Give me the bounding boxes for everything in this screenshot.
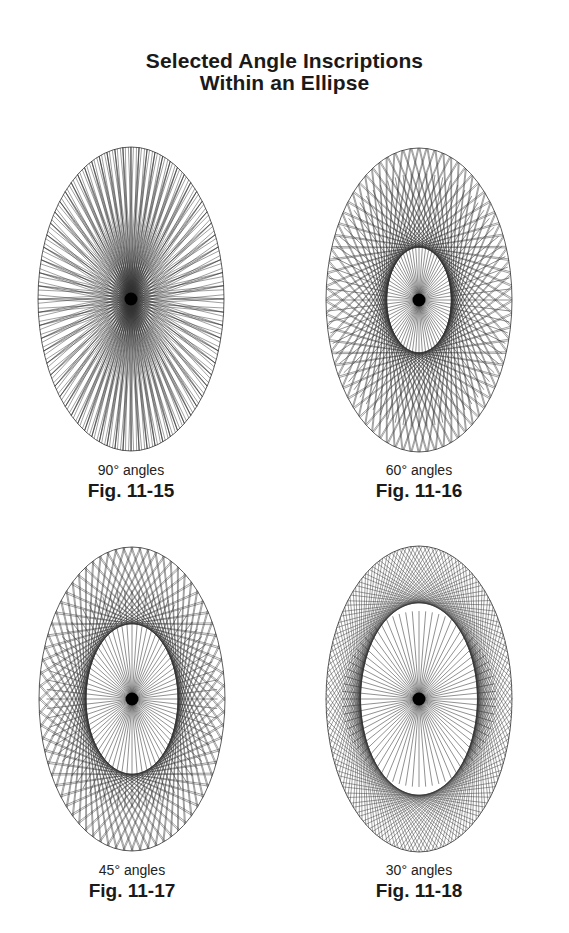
ellipse-figure-30-degrees bbox=[326, 546, 512, 852]
ellipse-figure-90-degrees bbox=[38, 147, 224, 451]
figure-caption-4: 30° angles bbox=[319, 862, 519, 878]
figure-caption-3: 45° angles bbox=[32, 862, 232, 878]
figure-caption-1: 90° angles bbox=[31, 462, 231, 478]
figure-label-3: Fig. 11-17 bbox=[32, 881, 232, 901]
figure-label-1: Fig. 11-15 bbox=[31, 481, 231, 501]
ellipse-figure-60-degrees bbox=[326, 148, 512, 452]
figure-label-4: Fig. 11-18 bbox=[319, 881, 519, 901]
ellipse-figure-45-degrees bbox=[39, 547, 225, 851]
figure-caption-2: 60° angles bbox=[319, 462, 519, 478]
figure-label-2: Fig. 11-16 bbox=[319, 481, 519, 501]
